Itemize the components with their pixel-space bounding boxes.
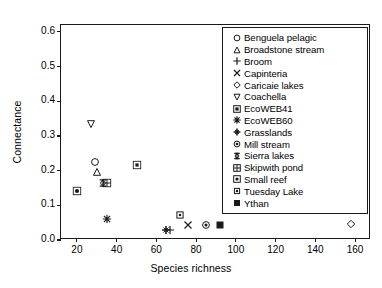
legend-item-sierra-lakes: Sierra lakes xyxy=(229,150,363,162)
x-tick-label: 80 xyxy=(176,244,216,255)
x-tick-label: 160 xyxy=(335,244,375,255)
legend-label: Small reef xyxy=(244,174,287,185)
legend-item-benguela-pelagic: Benguela pelagic xyxy=(229,32,363,44)
legend-label: EcoWEB60 xyxy=(244,115,293,126)
data-point-ecoweb41 xyxy=(132,161,141,170)
data-point-grasslands xyxy=(162,226,171,235)
y-tick-mark xyxy=(57,31,61,32)
legend-item-coachella: Coachella xyxy=(229,91,363,103)
legend-label: Benguela pelagic xyxy=(244,32,317,43)
legend-item-skipwith-pond: Skipwith pond xyxy=(229,162,363,174)
legend-item-caricaie-lakes: Caricaie lakes xyxy=(229,79,363,91)
legend-marker-icon xyxy=(229,67,244,79)
y-tick-mark xyxy=(57,239,61,240)
x-tick-mark xyxy=(315,238,316,242)
legend-label: Broom xyxy=(244,56,272,67)
legend-item-broadstone-stream: Broadstone stream xyxy=(229,44,363,56)
legend-label: Ythan xyxy=(244,198,269,209)
legend-item-small-reef: Small reef xyxy=(229,174,363,186)
y-tick-label: 0.5 xyxy=(41,60,55,71)
legend-label: EcoWEB41 xyxy=(244,103,293,114)
y-tick-label: 0.1 xyxy=(41,198,55,209)
legend-label: Broadstone stream xyxy=(244,44,324,55)
legend: Benguela pelagicBroadstone streamBroomCa… xyxy=(222,27,368,214)
legend-marker-icon xyxy=(229,197,244,209)
data-point-capinteria xyxy=(184,221,193,230)
legend-marker-icon xyxy=(229,44,244,56)
y-tick-label: 0.3 xyxy=(41,129,55,140)
legend-item-grasslands: Grasslands xyxy=(229,126,363,138)
data-point-broadstone-stream xyxy=(92,168,101,177)
data-point-skipwith-pond xyxy=(102,179,111,188)
data-point-ythan xyxy=(215,221,224,230)
legend-item-broom: Broom xyxy=(229,56,363,68)
data-point-caricaie-lakes xyxy=(347,220,356,229)
y-axis-label: Connectance xyxy=(11,82,23,182)
x-tick-mark xyxy=(196,238,197,242)
legend-item-ythan: Ythan xyxy=(229,197,363,209)
x-tick-mark xyxy=(275,238,276,242)
y-tick-mark xyxy=(57,135,61,136)
legend-marker-icon xyxy=(229,185,244,197)
legend-label: Sierra lakes xyxy=(244,150,294,161)
data-point-coachella xyxy=(86,119,95,128)
x-tick-mark xyxy=(76,238,77,242)
legend-label: Grasslands xyxy=(244,127,292,138)
data-point-ecoweb60 xyxy=(102,214,111,223)
legend-label: Caricaie lakes xyxy=(244,80,304,91)
legend-marker-icon xyxy=(229,32,244,44)
legend-label: Skipwith pond xyxy=(244,162,303,173)
x-tick-mark xyxy=(156,238,157,242)
x-tick-label: 40 xyxy=(97,244,137,255)
legend-marker-icon xyxy=(229,103,244,115)
legend-marker-icon xyxy=(229,138,244,150)
data-point-mill-stream xyxy=(202,221,211,230)
legend-label: Tuesday Lake xyxy=(244,186,303,197)
y-tick-label: 0.0 xyxy=(41,233,55,244)
legend-item-tuesday-lake: Tuesday Lake xyxy=(229,185,363,197)
y-tick-mark xyxy=(57,66,61,67)
data-point-benguela-pelagic xyxy=(90,157,99,166)
legend-marker-icon xyxy=(229,91,244,103)
x-tick-mark xyxy=(355,238,356,242)
y-tick-label: 0.2 xyxy=(41,164,55,175)
y-tick-label: 0.4 xyxy=(41,94,55,105)
x-tick-label: 100 xyxy=(216,244,256,255)
x-tick-label: 60 xyxy=(136,244,176,255)
x-tick-label: 20 xyxy=(57,244,97,255)
legend-label: Mill stream xyxy=(244,139,290,150)
legend-label: Coachella xyxy=(244,91,286,102)
legend-marker-icon xyxy=(229,174,244,186)
x-tick-label: 140 xyxy=(295,244,335,255)
legend-marker-icon xyxy=(229,162,244,174)
x-tick-label: 120 xyxy=(256,244,296,255)
legend-item-capinteria: Capinteria xyxy=(229,67,363,79)
legend-marker-icon xyxy=(229,79,244,91)
legend-marker-icon xyxy=(229,150,244,162)
y-tick-label: 0.6 xyxy=(41,25,55,36)
x-tick-mark xyxy=(235,238,236,242)
legend-item-ecoweb60: EcoWEB60 xyxy=(229,115,363,127)
legend-item-ecoweb41: EcoWEB41 xyxy=(229,103,363,115)
x-tick-mark xyxy=(116,238,117,242)
y-tick-mark xyxy=(57,101,61,102)
scatter-plot-figure: Connectance 0.00.10.20.30.40.50.6 204060… xyxy=(0,0,382,288)
data-point-tuesday-lake xyxy=(176,210,185,219)
legend-marker-icon xyxy=(229,56,244,68)
y-tick-mark xyxy=(57,170,61,171)
legend-marker-icon xyxy=(229,115,244,127)
x-axis-label: Species richness xyxy=(0,262,382,274)
legend-label: Capinteria xyxy=(244,68,287,79)
y-tick-mark xyxy=(57,205,61,206)
data-point-small-reef xyxy=(72,186,81,195)
legend-marker-icon xyxy=(229,126,244,138)
legend-item-mill-stream: Mill stream xyxy=(229,138,363,150)
